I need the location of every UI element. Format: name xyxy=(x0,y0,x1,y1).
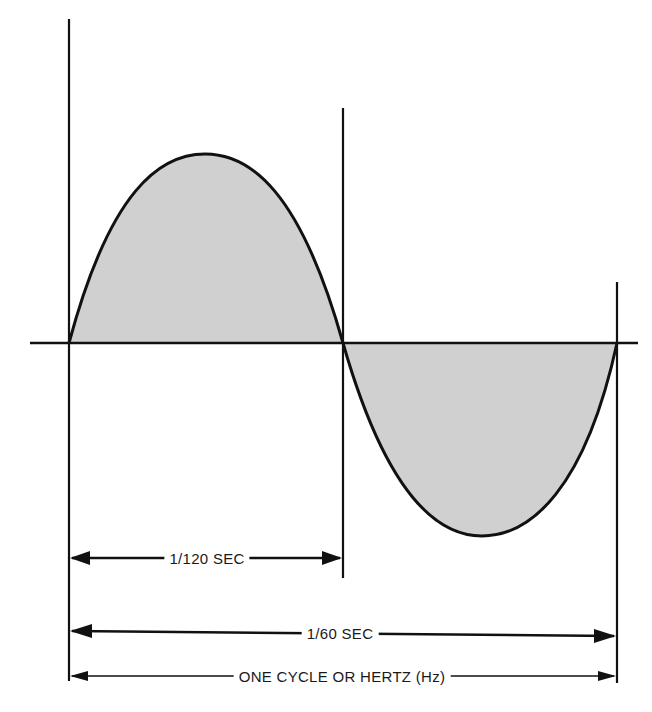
full-cycle-label: 1/60 SEC xyxy=(302,625,379,642)
arrowhead-right-icon xyxy=(322,551,342,565)
positive-half-cycle xyxy=(69,154,343,343)
arrowhead-left-icon xyxy=(70,551,90,565)
half-cycle-label: 1/120 SEC xyxy=(164,550,249,567)
sine-wave-diagram xyxy=(0,0,652,712)
arrowhead-left-icon xyxy=(70,671,88,681)
arrowhead-left-icon xyxy=(70,624,92,638)
arrowhead-right-icon xyxy=(598,671,616,681)
negative-half-cycle xyxy=(343,343,617,536)
cycle-definition-label: ONE CYCLE OR HERTZ (Hz) xyxy=(234,668,451,685)
arrowhead-right-icon xyxy=(594,629,616,643)
